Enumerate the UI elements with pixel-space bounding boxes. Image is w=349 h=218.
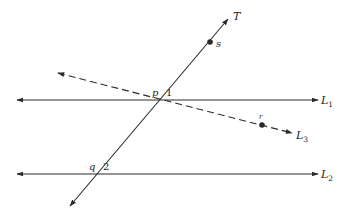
- geometry-diagram: L1L2L3Tsrpq12: [0, 0, 349, 218]
- point-r: [259, 122, 265, 128]
- line-label-l1: L1: [320, 94, 333, 109]
- point-label-s: s: [216, 38, 221, 49]
- lines-layer: [17, 19, 318, 206]
- line-label-l3: L3: [295, 129, 308, 144]
- angle-1-label: 1: [166, 87, 172, 98]
- points-layer: [207, 39, 265, 128]
- line-label-l2: L2: [320, 168, 333, 183]
- point-label-p: p: [152, 87, 159, 98]
- point-s: [207, 39, 213, 45]
- point-label-q: q: [89, 161, 95, 172]
- point-label-r: r: [259, 113, 263, 121]
- angle-2-label: 2: [103, 161, 109, 172]
- line-label-t: T: [233, 10, 242, 23]
- line-t: [70, 19, 228, 206]
- labels-layer: L1L2L3Tsrpq12: [89, 10, 333, 183]
